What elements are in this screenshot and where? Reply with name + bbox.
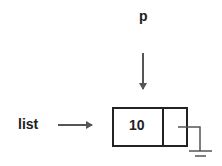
diagram-canvas	[0, 0, 222, 166]
node-box	[113, 108, 187, 146]
node-data-value: 10	[129, 118, 145, 132]
null-ground-icon	[178, 127, 212, 156]
list-node	[113, 108, 187, 146]
